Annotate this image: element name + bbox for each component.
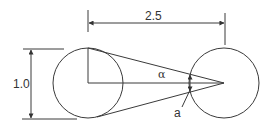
- gap-leader-line: [182, 90, 190, 107]
- diameter-label: 1.0: [13, 77, 30, 91]
- geometry-diagram: 2.5 1.0 α a: [0, 0, 270, 131]
- distance-label: 2.5: [145, 9, 162, 23]
- upper-tangent-line: [88, 48, 224, 83]
- gap-label: a: [174, 106, 181, 120]
- angle-alpha-label: α: [158, 68, 166, 81]
